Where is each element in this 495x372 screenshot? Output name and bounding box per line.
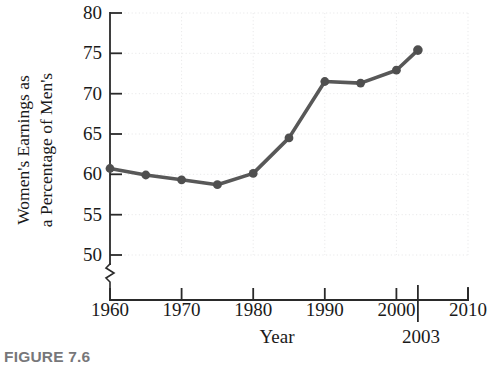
x-tick-label-1960: 1960 <box>75 300 145 319</box>
x-tick-label-2000: 2000 <box>361 300 431 319</box>
x-tick-label-1970: 1970 <box>147 300 217 319</box>
figure-caption: FIGURE 7.6 <box>4 348 90 366</box>
x-tick-label-1980: 1980 <box>218 300 288 319</box>
x-tick-labels: 1960 1970 1980 1990 2000 2010 <box>0 0 495 372</box>
x-axis-title: Year <box>240 326 314 348</box>
annotation-2003: 2003 <box>386 326 456 348</box>
x-tick-label-2010: 2010 <box>433 300 495 319</box>
x-tick-label-1990: 1990 <box>290 300 360 319</box>
figure-7-6: Women's Earnings as a Percentage of Men'… <box>0 0 495 372</box>
